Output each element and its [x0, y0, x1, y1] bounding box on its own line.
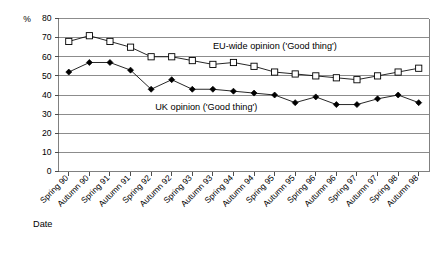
data-point-eu-8 [230, 59, 236, 65]
data-point-eu-5 [169, 54, 175, 60]
y-tick-label-20: 20 [42, 128, 52, 138]
data-point-eu-11 [292, 71, 298, 77]
y-tick-label-10: 10 [42, 147, 52, 157]
data-point-eu-14 [354, 77, 360, 83]
annotation-uk-opinion: UK opinion ('Good thing') [155, 102, 257, 112]
y-tick-label-0: 0 [47, 166, 52, 176]
y-tick-label-50: 50 [42, 71, 52, 81]
x-axis-title: Date [33, 219, 52, 229]
line-chart: 01020304050607080 % EU-wide opinion ('Go… [0, 0, 448, 255]
data-point-eu-15 [374, 73, 380, 79]
y-tick-label-60: 60 [42, 52, 52, 62]
data-point-eu-9 [251, 63, 257, 69]
y-tick-label-40: 40 [42, 90, 52, 100]
data-point-eu-1 [86, 33, 92, 39]
data-point-eu-12 [313, 73, 319, 79]
data-point-eu-10 [272, 69, 278, 75]
y-tick-label-80: 80 [42, 13, 52, 23]
data-point-eu-2 [107, 38, 113, 44]
chart-container: 01020304050607080 % EU-wide opinion ('Go… [0, 0, 448, 255]
data-point-eu-7 [210, 61, 216, 67]
data-point-eu-17 [416, 65, 422, 71]
data-point-eu-13 [333, 75, 339, 81]
data-point-eu-4 [148, 54, 154, 60]
y-tick-label-30: 30 [42, 109, 52, 119]
y-axis-unit-label: % [23, 14, 31, 24]
annotation-eu-opinion: EU-wide opinion ('Good thing') [213, 41, 337, 51]
y-tick-label-70: 70 [42, 32, 52, 42]
data-point-eu-6 [189, 57, 195, 63]
data-point-eu-3 [127, 44, 133, 50]
data-point-eu-0 [66, 38, 72, 44]
data-point-eu-16 [395, 69, 401, 75]
